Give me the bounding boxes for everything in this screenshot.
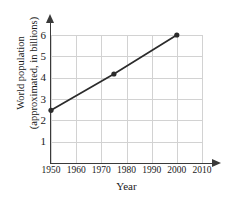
y-axis-title: World population (approximated, in billi…	[14, 0, 40, 158]
data-point	[111, 71, 116, 76]
x-tick-label: 1990	[138, 165, 166, 176]
data-point	[48, 108, 53, 113]
x-axis-title: Year	[51, 180, 202, 192]
x-tick-label: 1970	[87, 165, 115, 176]
data-point	[174, 32, 179, 37]
x-tick-label: 1980	[113, 165, 141, 176]
x-tick-label: 2000	[163, 165, 191, 176]
y-axis-title-line1: World population	[15, 36, 26, 110]
y-axis-title-line2: (approximated, in billions)	[27, 0, 40, 158]
x-tick-label: 1960	[62, 165, 90, 176]
x-tick-label: 1950	[37, 165, 65, 176]
x-tick-label: 2010	[188, 165, 216, 176]
chart-figure: 6 5 4 3 2 1 1950 1960 1970 1980 1990 200…	[0, 0, 228, 199]
